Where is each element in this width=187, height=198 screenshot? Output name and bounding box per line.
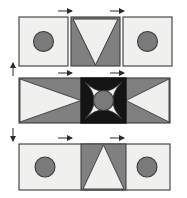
panel-top-right [123, 17, 172, 66]
circle-motif [94, 91, 114, 111]
circle-motif [35, 157, 55, 177]
pattern-diagram-svg [0, 0, 187, 198]
bottom-row [19, 144, 170, 190]
top-row [19, 17, 172, 66]
panel-top-left [19, 17, 68, 66]
circle-motif [137, 157, 157, 177]
circle-motif [34, 32, 54, 52]
panel-top-center [71, 17, 120, 66]
middle-row [19, 78, 170, 123]
diagram-canvas [0, 0, 187, 198]
circle-motif [138, 32, 158, 52]
